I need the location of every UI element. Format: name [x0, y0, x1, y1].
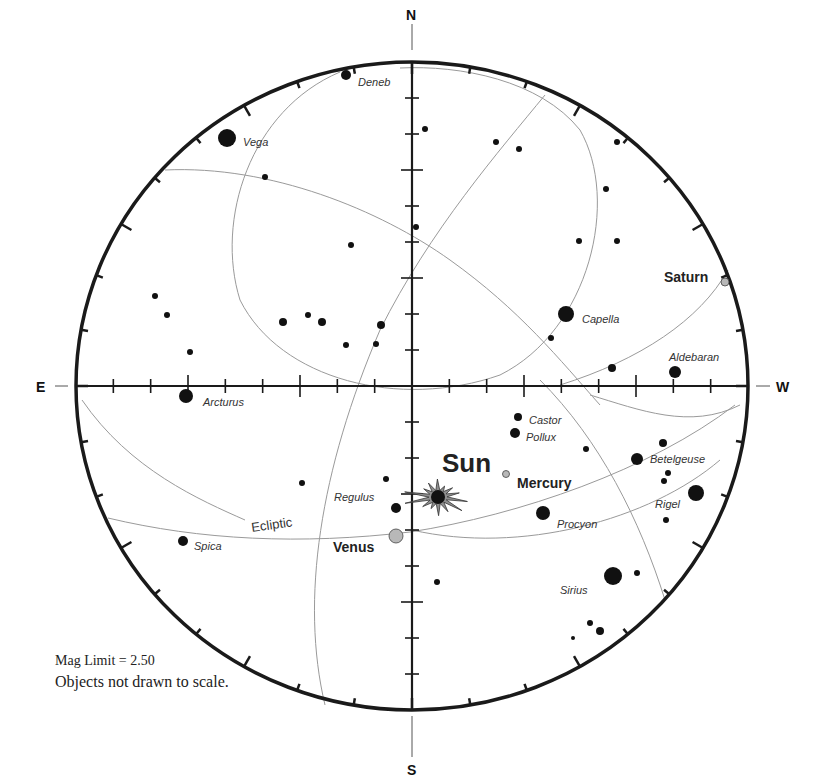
star: [383, 476, 389, 482]
star-label-betelgeuse: Betelgeuse: [650, 453, 705, 465]
planet-label-mercury: Mercury: [517, 475, 572, 491]
star-aldebaran: [669, 366, 681, 378]
star-pollux: [510, 428, 520, 438]
star: [493, 139, 499, 145]
star: [576, 238, 582, 244]
star: [614, 139, 620, 145]
star-label-procyon: Procyon: [557, 518, 597, 530]
star: [665, 470, 671, 476]
star: [318, 318, 326, 326]
star-arcturus: [179, 389, 193, 403]
star-spica: [178, 536, 188, 546]
star: [434, 579, 440, 585]
planet-venus: [389, 529, 403, 543]
mag-limit-value: 2.50: [130, 653, 155, 668]
ecliptic-curve: [108, 405, 735, 539]
star-label-sirius: Sirius: [560, 584, 588, 596]
star: [663, 517, 669, 523]
star: [659, 439, 667, 447]
sun-layer: [405, 479, 468, 516]
star-label-pollux: Pollux: [526, 431, 556, 443]
planet-mercury: [503, 471, 510, 478]
great-circle-a-curve: [165, 170, 600, 405]
star-rigel: [688, 485, 704, 501]
star-label-rigel: Rigel: [655, 498, 681, 510]
meridian-axes: [55, 24, 770, 757]
planet-label-venus: Venus: [333, 539, 374, 555]
star: [262, 174, 268, 180]
south-label: S: [407, 762, 416, 778]
star: [279, 318, 287, 326]
east-label: E: [36, 379, 45, 395]
star: [348, 242, 354, 248]
star: [608, 364, 616, 372]
west-label: W: [776, 379, 790, 395]
planet-label-saturn: Saturn: [664, 269, 708, 285]
sun-label: Sun: [442, 448, 491, 478]
star: [377, 321, 385, 329]
star-label-castor: Castor: [529, 414, 563, 426]
star-label-regulus: Regulus: [334, 491, 375, 503]
sun-core: [431, 490, 445, 504]
star: [571, 636, 575, 640]
star: [634, 570, 640, 576]
north-label: N: [406, 7, 416, 23]
planet-saturn: [721, 278, 729, 286]
star: [661, 478, 667, 484]
labels-layer: DenebVegaCapellaAldebaranArcturusCastorP…: [194, 76, 719, 596]
star-label-deneb: Deneb: [358, 76, 390, 88]
star: [583, 446, 589, 452]
star-label-vega: Vega: [243, 136, 268, 148]
star-label-capella: Capella: [582, 313, 619, 325]
great-circle-f-curve: [590, 395, 740, 417]
star-regulus: [391, 503, 401, 513]
star-sirius: [604, 567, 622, 585]
star-castor: [514, 413, 522, 421]
star: [413, 224, 419, 230]
mag-limit: Mag Limit = 2.50: [55, 653, 155, 669]
star: [422, 126, 428, 132]
star-label-arcturus: Arcturus: [202, 396, 244, 408]
star: [299, 480, 305, 486]
star: [516, 146, 522, 152]
scale-note: Objects not drawn to scale.: [55, 673, 229, 691]
star: [548, 335, 554, 341]
star-vega: [218, 129, 236, 147]
star: [614, 238, 620, 244]
star-capella: [558, 306, 574, 322]
star: [187, 349, 193, 355]
stars-layer: [152, 70, 704, 640]
great-circle-c-curve: [82, 400, 245, 520]
star: [152, 293, 158, 299]
star-betelgeuse: [631, 453, 643, 465]
star-label-aldebaran: Aldebaran: [668, 351, 719, 363]
star: [587, 620, 593, 626]
star-deneb: [341, 70, 351, 80]
mag-limit-label: Mag Limit =: [55, 653, 127, 668]
star-label-spica: Spica: [194, 540, 222, 552]
great-circle-b-curve: [314, 95, 545, 705]
star: [305, 312, 311, 318]
ecliptic-label: Ecliptic: [250, 514, 293, 535]
star-procyon: [536, 506, 550, 520]
star: [164, 312, 170, 318]
great-circle-e-curve: [560, 270, 728, 385]
star: [373, 341, 379, 347]
star: [603, 186, 609, 192]
star: [596, 627, 604, 635]
star: [343, 342, 349, 348]
